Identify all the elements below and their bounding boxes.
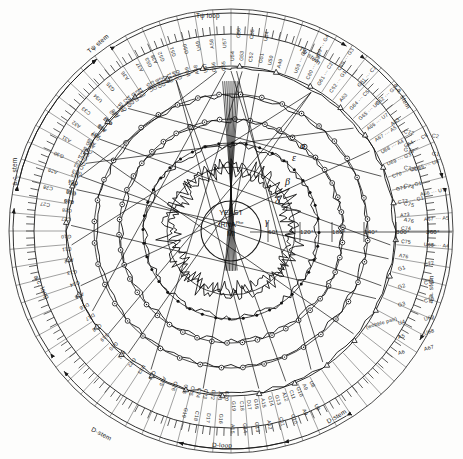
greek-β: β xyxy=(285,176,290,187)
greek-ε: ε xyxy=(292,152,296,163)
upair-right-C2: C2 xyxy=(431,132,439,139)
ring-top-8: C55 xyxy=(220,61,226,71)
greek-γ: γ xyxy=(265,216,269,227)
ring-ll-15: C11 xyxy=(62,245,72,252)
center-line-3: MI xyxy=(198,229,264,239)
greek-α: α xyxy=(300,140,305,151)
angle-tick-240: 240° xyxy=(364,228,378,235)
ring-bottom-11: G19 xyxy=(231,401,237,411)
figure-canvas: Tψ loopTψ stemTψ stema.a. stema.c. stema… xyxy=(0,0,463,459)
center-line-2: tRNAPhe xyxy=(198,218,264,230)
center-line-1: YEAST xyxy=(198,208,264,218)
ring-bottom2-7: A15 xyxy=(230,424,236,434)
ring-bottom-14: G22 xyxy=(210,389,217,400)
ring-left-2: A29 xyxy=(63,198,74,206)
center-caption: YEAST tRNAPhe MI xyxy=(198,208,264,239)
section-label-d-loop: D-loop xyxy=(212,441,232,449)
ring-left-1: C28 xyxy=(62,207,73,214)
ring-top2-6: U57 xyxy=(221,38,227,48)
section-label-t-psi-loop: Tψ loop xyxy=(196,12,220,19)
ring-top-6: U57 xyxy=(201,63,209,74)
ring-ll-16: G10 xyxy=(61,234,71,240)
ring-ur-16: C75 xyxy=(400,238,410,245)
ring-bottom-10: C18 xyxy=(239,400,246,410)
ring-top-7: G56 xyxy=(210,62,217,73)
ring-top-10: G53 xyxy=(238,51,245,62)
greek-δ: δ xyxy=(275,195,280,206)
ring-top2-7: G56 xyxy=(235,28,241,38)
angle-tick-180: 180° xyxy=(332,228,346,235)
angle-tick-360: 360° xyxy=(426,228,440,235)
ring-top2-5: A58 xyxy=(208,39,215,49)
ring-ur-17: A76 xyxy=(399,252,409,259)
ring-top-9: U54 xyxy=(229,51,235,61)
ring-bottom-12: G20 xyxy=(224,391,230,401)
ring-top2-9: U54 xyxy=(262,31,270,42)
angle-tick-60: 60° xyxy=(268,228,278,235)
ring-ur-14: A73 xyxy=(400,211,410,218)
section-label-ac-stem-left: a.c. stem xyxy=(11,158,18,186)
ring-bottom-8: G16 xyxy=(253,399,260,410)
ring-left-0: C27 xyxy=(61,216,71,223)
ring-top2-8: C55 xyxy=(248,29,255,40)
angle-tick-120: 120° xyxy=(300,228,314,235)
ring-bottom2-6: G14 xyxy=(242,423,249,434)
ring-bottom-13: A21 xyxy=(217,391,224,401)
ring-ur-15: C74 xyxy=(401,225,411,231)
ring-bottom-9: D17 xyxy=(246,400,253,411)
ring-bottom2-8: G16 xyxy=(218,413,225,424)
upair-right-G1: G1 xyxy=(431,150,440,157)
